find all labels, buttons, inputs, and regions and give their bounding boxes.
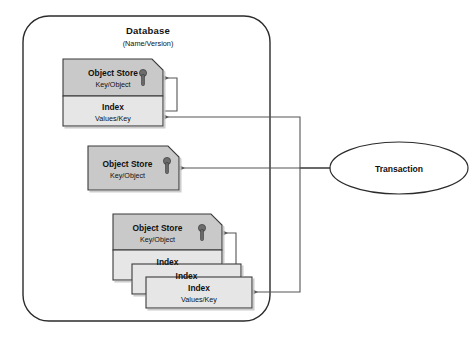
- store-2-sublabel: Key/Object: [88, 172, 167, 179]
- connector-transaction-to-store-3-index: [252, 168, 331, 292]
- store-3-index-3-label: Index: [146, 284, 252, 292]
- store-3-index-1-label: Index: [113, 258, 222, 266]
- connector-store-1-index-to-store: [163, 78, 177, 111]
- diagram-canvas: Database (Name/Version) Object Store Key…: [0, 0, 475, 337]
- store-2-label: Object Store: [88, 160, 167, 168]
- store-1-index-1-sublabel: Values/Key: [63, 115, 163, 122]
- database-sublabel: (Name/Version): [73, 39, 223, 48]
- database-title: Database: [73, 25, 223, 36]
- transaction-label: Transaction: [330, 164, 468, 174]
- store-3-index-3-sublabel: Values/Key: [146, 296, 252, 303]
- store-1-sublabel: Key/Object: [63, 81, 163, 88]
- connector-transaction-to-store-1-index: [163, 117, 331, 168]
- store-3-index-2-label: Index: [132, 272, 241, 280]
- store-3-sublabel: Key/Object: [113, 236, 202, 243]
- store-1-index-1-label: Index: [63, 103, 163, 111]
- store-1-label: Object Store: [63, 69, 163, 77]
- store-3-label: Object Store: [113, 224, 202, 232]
